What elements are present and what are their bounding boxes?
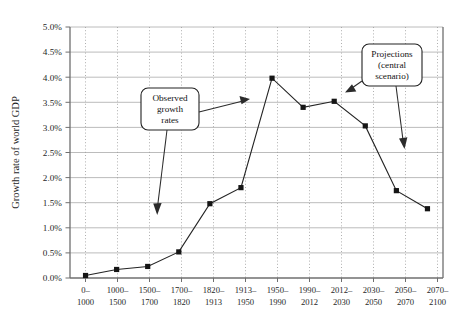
x-tick-label-line2: 1913 [205, 297, 222, 307]
x-tick-label-line2: 2030 [333, 297, 350, 307]
y-tick-label: 2.0% [43, 173, 62, 183]
y-tick-label: 4.0% [43, 73, 62, 83]
x-tick-label-line1: 1820– [203, 285, 225, 295]
data-point-marker [145, 264, 150, 269]
y-tick-label: 1.0% [43, 223, 62, 233]
y-tick-label: 3.5% [43, 98, 62, 108]
x-tick-label-line2: 1820 [173, 297, 190, 307]
x-tick-label-line1: 1950– [267, 285, 289, 295]
x-tick-label-line1: 2030– [363, 285, 385, 295]
y-tick-label: 0.5% [43, 248, 62, 258]
x-tick-labels: 0– 1000 1000– 1500 1500– 1700 1700– 1820… [77, 285, 449, 307]
x-tick-label-line1: 1700– [171, 285, 193, 295]
x-tick-label-line1: 2070– [427, 285, 449, 295]
annotation-observed-line1: Observed [152, 93, 188, 103]
y-tick-marks [66, 27, 71, 278]
data-point-marker [269, 76, 274, 81]
annotation-projections-line1: Projections [371, 49, 413, 59]
x-tick-label-line1: 0– [81, 285, 90, 295]
data-point-marker [332, 99, 337, 104]
x-tick-label-line1: 2050– [395, 285, 417, 295]
data-point-marker [394, 188, 399, 193]
data-point-marker [207, 201, 212, 206]
data-point-marker [238, 185, 243, 190]
x-tick-label-line2: 2050 [365, 297, 382, 307]
data-point-marker [114, 267, 119, 272]
x-tick-label-line2: 1950 [237, 297, 254, 307]
y-tick-label: 5.0% [43, 22, 62, 32]
data-point-marker [301, 105, 306, 110]
x-tick-label-line1: 1000– [107, 285, 129, 295]
annotation-projections-line3: scenario) [375, 71, 409, 81]
y-tick-label: 3.0% [43, 123, 62, 133]
y-axis-title: Growth rate of world GDP [10, 96, 21, 209]
y-tick-labels: 5.0% 4.5% 4.0% 3.5% 3.0% 2.5% 2.0% 1.5% … [43, 22, 62, 283]
x-tick-label-line1: 1913– [235, 285, 257, 295]
x-tick-label-line2: 2070 [397, 297, 414, 307]
x-tick-label-line2: 1990 [269, 297, 286, 307]
x-tick-label-line2: 1000 [77, 297, 94, 307]
annotation-observed-line2: growth [157, 104, 183, 114]
y-tick-label: 4.5% [43, 47, 62, 57]
chart-figure: 5.0% 4.5% 4.0% 3.5% 3.0% 2.5% 2.0% 1.5% … [0, 0, 470, 316]
x-tick-label-line1: 2012– [331, 285, 353, 295]
x-tick-label-line2: 1700 [141, 297, 158, 307]
data-point-marker [363, 123, 368, 128]
annotation-projections-line2: (central [378, 60, 406, 70]
y-tick-label: 1.5% [43, 198, 62, 208]
growth-rate-line-chart: 5.0% 4.5% 4.0% 3.5% 3.0% 2.5% 2.0% 1.5% … [0, 0, 470, 316]
x-tick-label-line2: 2012 [301, 297, 318, 307]
x-tick-label-line2: 2100 [429, 297, 446, 307]
data-point-marker [425, 206, 430, 211]
y-tick-label: 2.5% [43, 148, 62, 158]
x-tick-label-line2: 1500 [109, 297, 126, 307]
x-tick-label-line1: 1500– [139, 285, 161, 295]
x-tick-label-line1: 1990– [299, 285, 321, 295]
y-tick-label: 0.0% [43, 273, 62, 283]
data-point-marker [176, 249, 181, 254]
annotation-observed-line3: rates [161, 115, 179, 125]
data-point-marker [83, 273, 88, 278]
